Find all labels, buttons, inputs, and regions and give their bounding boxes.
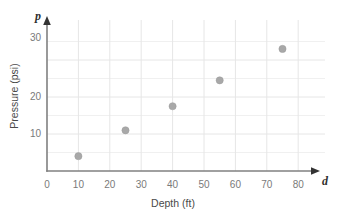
plot-canvas: p d 10 20 30 0 10 20 30 40 50 60 70 80 D… xyxy=(0,0,343,214)
data-point xyxy=(169,103,176,110)
x-tick-10: 10 xyxy=(73,179,85,190)
x-axis-variable-label: d xyxy=(322,174,329,188)
data-point-series xyxy=(75,45,286,159)
y-tick-20: 20 xyxy=(30,91,42,102)
x-tick-30: 30 xyxy=(136,179,148,190)
x-tick-labels: 0 10 20 30 40 50 60 70 80 xyxy=(44,179,304,190)
grid-horizontal xyxy=(47,42,325,153)
scatter-plot-figure: p d 10 20 30 0 10 20 30 40 50 60 70 80 D… xyxy=(0,0,343,214)
x-tick-80: 80 xyxy=(293,179,305,190)
x-tick-70: 70 xyxy=(261,179,273,190)
data-point xyxy=(279,45,286,52)
y-tick-labels: 10 20 30 xyxy=(30,32,42,139)
x-axis-arrowhead xyxy=(311,167,320,175)
data-point xyxy=(122,127,129,134)
x-tick-50: 50 xyxy=(198,179,210,190)
x-tick-40: 40 xyxy=(167,179,179,190)
x-tick-20: 20 xyxy=(104,179,116,190)
y-tick-10: 10 xyxy=(30,128,42,139)
x-tick-60: 60 xyxy=(230,179,242,190)
axes xyxy=(43,16,320,175)
grid-vertical xyxy=(78,20,298,171)
y-axis-variable-label: p xyxy=(34,9,41,23)
data-point xyxy=(75,153,82,160)
x-axis-title: Depth (ft) xyxy=(151,197,195,209)
x-tick-0: 0 xyxy=(44,179,50,190)
y-axis-title: Pressure (psi) xyxy=(8,63,20,128)
y-axis-arrowhead xyxy=(43,16,51,25)
y-tick-30: 30 xyxy=(30,32,42,43)
data-point xyxy=(216,77,223,84)
